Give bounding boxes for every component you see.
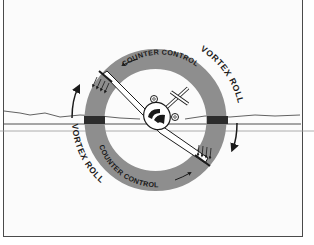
engine-left — [151, 96, 158, 103]
vortex-arrow-left — [72, 88, 78, 118]
vortex-roll-diagram: COUNTER CONTROL COUNTER CONTROL VORTEX R… — [0, 0, 314, 245]
vortex-arrow-right — [233, 123, 237, 148]
ring-dark-band-right — [207, 116, 228, 124]
engine-right — [172, 114, 179, 121]
ring-dark-band-left — [84, 116, 105, 124]
